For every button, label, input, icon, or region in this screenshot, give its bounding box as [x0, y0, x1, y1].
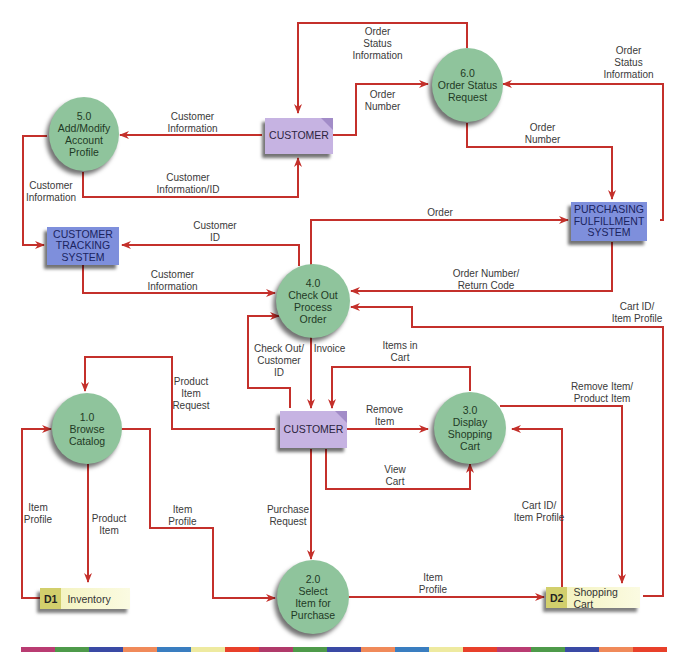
flow-label: Customer Information [160, 111, 225, 135]
color-bar-segment [123, 647, 157, 652]
flow-label: Order Number/ Return Code [446, 268, 526, 292]
entity-label-line: SYSTEM [61, 252, 104, 264]
flow-label: Product Item [89, 513, 129, 537]
flow-label: Order Number [520, 122, 565, 146]
data-store-name: Inventory [61, 588, 116, 609]
process-number: 2.0 [306, 573, 321, 585]
process-name-line: Purchase [291, 609, 335, 621]
process-number: 5.0 [77, 110, 92, 122]
process-name-line: Request [448, 91, 487, 103]
decorative-color-bar [21, 647, 667, 652]
process-number: 6.0 [460, 67, 475, 79]
entity-label-line: SYSTEM [587, 227, 630, 239]
process-number: 4.0 [306, 277, 321, 289]
flow-status-to-6 [503, 84, 663, 220]
process-name-line: Shopping [448, 428, 492, 440]
flow-label: Product Item Request [170, 376, 212, 412]
color-bar-segment [259, 647, 293, 652]
flow-label: Check Out/ Customer ID [250, 343, 308, 379]
entity-customer-middle[interactable]: CUSTOMER [280, 411, 347, 448]
flow-label: Item Profile [414, 572, 452, 596]
process-5-0[interactable]: 5.0 Add/Modify Account Profile [49, 97, 119, 171]
flow-label: Remove Item [362, 404, 407, 428]
process-name-line: Check Out [288, 289, 338, 301]
data-store-id: D2 [546, 587, 567, 608]
color-bar-segment [463, 647, 497, 652]
entity-customer-top[interactable]: CUSTOMER [265, 118, 333, 154]
flow-label: Order [420, 207, 460, 219]
flow-label: Cart ID/ Item Profile [504, 500, 574, 524]
color-bar-segment [395, 647, 429, 652]
data-store-id: D1 [40, 588, 61, 609]
entity-purchasing-fulfillment-system[interactable]: PURCHASING FULFILLMENT SYSTEM [571, 202, 647, 241]
process-name-line: Profile [69, 146, 99, 158]
process-name-line: Order [300, 313, 327, 325]
process-number: 3.0 [463, 404, 478, 416]
process-1-0[interactable]: 1.0 Browse Catalog [52, 393, 122, 464]
color-bar-segment [497, 647, 531, 652]
flow-label: View Cart [375, 464, 415, 488]
data-store-name: Shopping Cart [567, 587, 640, 608]
process-name-line: Item for [295, 597, 331, 609]
flow-label: Customer Information [20, 180, 82, 204]
process-name-line: Select [298, 585, 327, 597]
process-name-line: Add/Modify [58, 122, 111, 134]
color-bar-segment [157, 647, 191, 652]
color-bar-segment [225, 647, 259, 652]
color-bar-segment [21, 647, 55, 652]
flow-order-to-purch [311, 220, 568, 266]
flow-label: Customer Information/ID [148, 172, 228, 196]
data-store-d1-inventory[interactable]: D1 Inventory [40, 588, 130, 609]
entity-label: CUSTOMER [269, 130, 329, 142]
flow-label: Cart ID/ Item Profile [602, 301, 672, 325]
process-4-0[interactable]: 4.0 Check Out Process Order [276, 264, 350, 338]
flow-label: Customer Information [140, 269, 205, 293]
color-bar-segment [293, 647, 327, 652]
process-3-0[interactable]: 3.0 Display Shopping Cart [434, 392, 506, 464]
flow-label: Order Status Information [596, 45, 661, 81]
flow-label: Invoice [312, 343, 347, 355]
color-bar-segment [599, 647, 633, 652]
entity-customer-tracking-system[interactable]: CUSTOMER TRACKING SYSTEM [47, 227, 119, 265]
color-bar-segment [633, 647, 667, 652]
data-flow-diagram: 5.0 Add/Modify Account Profile 6.0 Order… [0, 0, 685, 659]
process-name-line: Order Status [438, 79, 498, 91]
flow-label: Items in Cart [375, 340, 425, 364]
color-bar-segment [191, 647, 225, 652]
flow-label: Item Profile [22, 502, 54, 526]
flow-label: Item Profile [165, 504, 200, 528]
flow-arrows [0, 0, 685, 659]
data-store-d2-shopping-cart[interactable]: D2 Shopping Cart [546, 587, 640, 608]
color-bar-segment [429, 647, 463, 652]
color-bar-segment [55, 647, 89, 652]
process-name-line: Catalog [69, 435, 105, 447]
process-name-line: Display [453, 416, 487, 428]
process-2-0[interactable]: 2.0 Select Item for Purchase [277, 560, 349, 634]
process-name-line: Process [294, 301, 332, 313]
process-name-line: Cart [460, 440, 480, 452]
flow-label: Customer ID [190, 220, 240, 244]
entity-label: CUSTOMER [284, 424, 344, 436]
process-6-0[interactable]: 6.0 Order Status Request [432, 48, 503, 122]
flow-label: Order Number [360, 89, 405, 113]
color-bar-segment [361, 647, 395, 652]
flow-custid-to-tracking [122, 245, 299, 266]
color-bar-segment [327, 647, 361, 652]
flow-label: Remove Item/ Product Item [562, 381, 642, 405]
color-bar-segment [565, 647, 599, 652]
process-name-line: Browse [69, 423, 104, 435]
process-number: 1.0 [80, 411, 95, 423]
color-bar-segment [89, 647, 123, 652]
process-name-line: Account [65, 134, 103, 146]
flow-label: Order Status Information [345, 26, 410, 62]
color-bar-segment [531, 647, 565, 652]
flow-label: Purchase Request [264, 504, 312, 528]
